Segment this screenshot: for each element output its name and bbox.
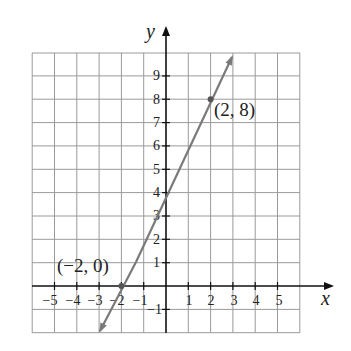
- y-tick-label: 7: [153, 115, 160, 130]
- x-tick-label: −5: [43, 293, 58, 308]
- point-marker: [208, 96, 214, 102]
- x-axis-label: x: [320, 287, 330, 309]
- x-tick-label: 5: [276, 293, 283, 308]
- graph-line: [136, 57, 232, 262]
- y-tick-label: 8: [153, 92, 160, 107]
- x-tick-label: 3: [231, 293, 238, 308]
- x-tick-label: 2: [208, 293, 215, 308]
- y-tick-label: 4: [153, 185, 160, 200]
- graph: −5 −4 −3 −2 −1 1 2 3 4 5 −1 1 2 3 4 5 6 …: [0, 0, 351, 351]
- y-tick-label: 5: [153, 162, 160, 177]
- x-tick-labels: −5 −4 −3 −2 −1 1 2 3 4 5: [43, 293, 283, 308]
- x-tick-label: −1: [133, 293, 148, 308]
- y-tick-label: 1: [153, 255, 160, 270]
- point-marker: [118, 283, 124, 289]
- y-tick-label: 6: [153, 138, 160, 153]
- x-tick-label: −4: [66, 293, 81, 308]
- y-tick-label: 2: [153, 232, 160, 247]
- y-tick-label: −1: [147, 302, 162, 317]
- x-tick-label: 1: [186, 293, 193, 308]
- y-axis-label: y: [144, 20, 155, 43]
- x-tick-label: −3: [88, 293, 103, 308]
- x-tick-label: 4: [253, 293, 260, 308]
- point-label: (2, 8): [214, 99, 255, 121]
- y-tick-label: 9: [153, 68, 160, 83]
- point-label: (−2, 0): [57, 255, 109, 277]
